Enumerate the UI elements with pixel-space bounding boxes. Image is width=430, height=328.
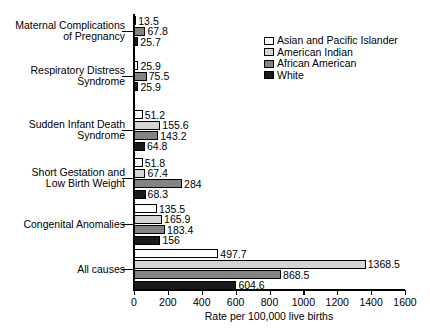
- category-label-4: Congenital Anomalies: [23, 219, 125, 231]
- bar-0-2: [134, 110, 143, 119]
- legend-item-0: Asian and Pacific Islander: [264, 35, 398, 47]
- x-tick-200: [168, 290, 169, 295]
- bar-value-label-2-5: 868.5: [283, 271, 309, 280]
- bar-chart-plot: 02004006008001000120014001600 Maternal C…: [0, 0, 430, 328]
- x-tick-label-1600: 1600: [385, 296, 425, 308]
- bar-3-1: [134, 82, 138, 91]
- legend-item-2: African American: [264, 58, 398, 70]
- bar-value-label-3-1: 25.9: [140, 83, 160, 92]
- bar-value-label-1-5: 1368.5: [368, 260, 400, 269]
- x-tick-1000: [303, 290, 304, 295]
- bar-2-4: [134, 225, 165, 234]
- x-tick-800: [270, 290, 271, 295]
- x-tick-400: [202, 290, 203, 295]
- legend-swatch-icon-1: [264, 48, 274, 56]
- bar-3-5: [134, 281, 236, 290]
- bar-value-label-3-0: 25.7: [140, 38, 160, 47]
- legend-swatch-icon-0: [264, 37, 274, 45]
- x-tick-1400: [371, 290, 372, 295]
- bar-3-2: [134, 142, 145, 151]
- legend-label-3: White: [277, 70, 304, 82]
- bar-1-4: [134, 215, 162, 224]
- bar-value-label-2-0: 67.8: [147, 27, 167, 36]
- legend-item-3: White: [264, 70, 398, 82]
- category-label-2: Sudden Infant Death Syndrome: [29, 119, 125, 142]
- bar-value-label-0-5: 497.7: [220, 250, 246, 259]
- bar-value-label-1-4: 165.9: [164, 215, 190, 224]
- bar-0-4: [134, 204, 157, 213]
- x-axis-title: Rate per 100,000 live births: [133, 310, 405, 322]
- category-label-5: All causes: [77, 264, 125, 276]
- bar-0-3: [134, 158, 143, 167]
- bar-2-3: [134, 179, 182, 188]
- bar-1-3: [134, 169, 145, 178]
- bar-3-3: [134, 190, 146, 199]
- legend-label-2: African American: [277, 58, 356, 70]
- bar-value-label-1-2: 155.6: [162, 121, 188, 130]
- bar-value-label-3-3: 68.3: [148, 190, 168, 199]
- category-label-1: Respiratory Distress Syndrome: [30, 65, 125, 88]
- bar-value-label-2-3: 284: [184, 180, 202, 189]
- x-tick-1200: [337, 290, 338, 295]
- bar-2-5: [134, 270, 281, 279]
- bar-2-0: [134, 27, 145, 36]
- x-tick-1600: [405, 290, 406, 295]
- bar-0-5: [134, 249, 218, 258]
- legend-swatch-icon-2: [264, 60, 274, 68]
- bar-value-label-3-5: 604.6: [238, 281, 264, 290]
- category-label-0: Maternal Complications of Pregnancy: [15, 20, 125, 43]
- bar-2-1: [134, 72, 147, 81]
- x-tick-600: [236, 290, 237, 295]
- bar-value-label-2-1: 75.5: [149, 72, 169, 81]
- bar-0-0: [134, 16, 136, 25]
- legend-label-0: Asian and Pacific Islander: [277, 35, 398, 47]
- category-label-3: Short Gestation and Low Birth Weight: [32, 167, 125, 190]
- bar-1-2: [134, 121, 160, 130]
- x-tick-0: [134, 290, 135, 295]
- chart-screenshot: 02004006008001000120014001600 Maternal C…: [0, 0, 430, 328]
- bar-1-5: [134, 260, 366, 269]
- bar-3-0: [134, 37, 138, 46]
- bar-value-label-1-3: 67.4: [147, 169, 167, 178]
- bar-value-label-3-2: 64.8: [147, 142, 167, 151]
- legend-swatch-icon-3: [264, 71, 274, 79]
- bar-value-label-3-4: 156: [162, 236, 180, 245]
- bar-2-2: [134, 131, 158, 140]
- bar-3-4: [134, 236, 160, 245]
- chart-legend: Asian and Pacific IslanderAmerican India…: [264, 35, 398, 81]
- bar-0-1: [134, 61, 138, 70]
